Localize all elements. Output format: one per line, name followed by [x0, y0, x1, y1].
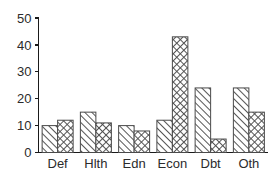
bar: [119, 126, 135, 153]
y-tick-label: 30: [17, 64, 31, 79]
bar: [80, 112, 96, 152]
bar: [96, 123, 112, 153]
chart-canvas: 01020304050 DefHlthEdnEconDbtOth: [0, 0, 275, 180]
y-tick-label: 0: [24, 145, 31, 160]
x-category-label: Dbt: [201, 156, 222, 171]
bar: [58, 120, 74, 152]
x-category-label: Edn: [123, 156, 146, 171]
bar-chart: 01020304050 DefHlthEdnEconDbtOth: [0, 0, 275, 180]
y-tick-label: 40: [17, 38, 31, 53]
x-category-label: Econ: [158, 156, 188, 171]
x-axis-category-labels: DefHlthEdnEconDbtOth: [48, 156, 260, 171]
y-tick-label: 20: [17, 91, 31, 106]
bar: [134, 131, 150, 153]
bar: [157, 120, 173, 152]
y-axis-ticks: 01020304050: [17, 11, 38, 161]
y-tick-label: 10: [17, 118, 31, 133]
x-category-label: Def: [48, 156, 69, 171]
bar: [42, 126, 58, 153]
bar: [195, 88, 211, 153]
bar: [172, 37, 188, 153]
x-category-label: Hlth: [84, 156, 107, 171]
bar-series-group: [42, 37, 264, 153]
bar: [233, 88, 249, 153]
x-category-label: Oth: [238, 156, 259, 171]
bar: [211, 139, 227, 152]
y-tick-label: 50: [17, 11, 31, 26]
bar: [249, 112, 265, 152]
